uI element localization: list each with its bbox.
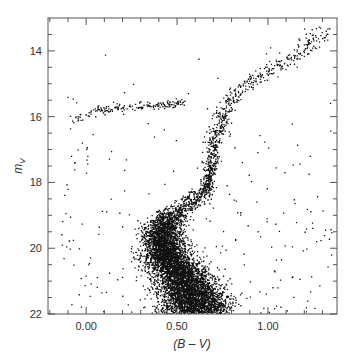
scatter-points: [61, 26, 332, 314]
star-points: [61, 26, 332, 314]
x-tick-label: 0.50: [166, 320, 187, 332]
y-tick-label: 14: [30, 45, 42, 57]
y-tick-label: 16: [30, 111, 42, 123]
x-tick-label: 1.00: [257, 320, 278, 332]
y-axis-title: mV: [11, 158, 27, 174]
y-tick-label: 20: [30, 242, 42, 254]
x-axis-title: (B – V): [173, 337, 210, 351]
x-tick-label: 0.00: [75, 320, 96, 332]
y-tick-label: 18: [30, 176, 42, 188]
color-magnitude-diagram: 0.000.501.00 1416182022 (B – V) mV: [0, 0, 356, 360]
y-tick-label: 22: [30, 308, 42, 320]
